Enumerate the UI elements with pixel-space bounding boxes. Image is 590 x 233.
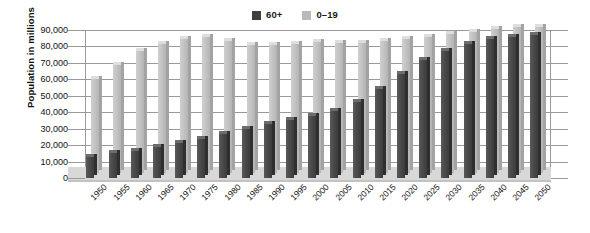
- depth-connector-2: [68, 145, 85, 146]
- bar-side-facet: [499, 26, 502, 170]
- y-axis-tick-3: 30,000: [24, 124, 68, 133]
- bar-face: [109, 153, 117, 178]
- bar-60-1985: [242, 129, 250, 178]
- bar-60-2050: [530, 35, 538, 178]
- bar-top-facet: [264, 121, 272, 124]
- bar-top-facet: [375, 86, 383, 89]
- bar-top-facet: [247, 42, 255, 45]
- bar-top-facet: [313, 39, 321, 42]
- bar-top-facet: [308, 113, 316, 116]
- bar-top-facet: [380, 38, 388, 41]
- population-bar-chart: 60+ 0–19 Population in millions 010,0002…: [0, 0, 590, 233]
- bar-60-2005: [330, 111, 338, 178]
- bar-body: [530, 35, 538, 178]
- legend-entry-60plus: 60+: [252, 10, 282, 20]
- bar-side-facet: [299, 41, 302, 170]
- bar-60-1970: [175, 143, 183, 178]
- y-axis-tick-5: 50,000: [24, 91, 68, 100]
- bar-side-facet: [343, 40, 346, 170]
- bar-top-facet: [219, 131, 227, 134]
- bar-top-facet: [175, 140, 183, 143]
- bar-60-1965: [153, 147, 161, 178]
- bar-60-1955: [109, 153, 117, 178]
- bar-side-facet: [250, 126, 253, 175]
- bar-face: [131, 151, 139, 178]
- bar-top-facet: [535, 24, 543, 27]
- bar-face: [308, 116, 316, 178]
- side-depth-tick-4: [551, 112, 568, 113]
- bar-side-facet: [472, 41, 475, 175]
- bar-top-facet: [508, 34, 516, 37]
- dark-square-icon: [252, 11, 261, 20]
- side-depth-tick-6: [551, 79, 568, 80]
- y-axis-tick-7: 70,000: [24, 58, 68, 67]
- bar-side-facet: [117, 150, 120, 175]
- side-depth-tick-1: [551, 162, 568, 163]
- bar-top-facet: [335, 40, 343, 43]
- depth-connector-8: [68, 46, 85, 47]
- bar-side-facet: [166, 41, 169, 170]
- bar-top-facet: [441, 48, 449, 51]
- bar-60-1960: [131, 151, 139, 178]
- bar-face: [242, 129, 250, 178]
- bar-face: [375, 89, 383, 178]
- y-axis-tick-2: 20,000: [24, 141, 68, 150]
- y-axis-tick-9: 90,000: [24, 26, 68, 35]
- bar-side-facet: [316, 113, 319, 175]
- bar-top-facet: [131, 148, 139, 151]
- bar-top-facet: [109, 150, 117, 153]
- bar-side-facet: [432, 34, 435, 170]
- legend-entry-0-19: 0–19: [302, 10, 338, 20]
- depth-connector-1: [68, 162, 85, 163]
- bar-series-container: [68, 30, 568, 190]
- bar-side-facet: [144, 48, 147, 170]
- side-depth-tick-0: [551, 178, 568, 179]
- depth-connector-4: [68, 112, 85, 113]
- bar-60-2000: [308, 116, 316, 178]
- plot-area: [68, 30, 568, 190]
- y-axis-tick-8: 80,000: [24, 42, 68, 51]
- bar-face: [86, 157, 94, 178]
- y-axis-tick-4: 40,000: [24, 108, 68, 117]
- bar-body: [486, 39, 494, 178]
- bar-top-facet: [353, 99, 361, 102]
- bar-top-facet: [491, 26, 499, 29]
- light-square-icon: [302, 11, 311, 20]
- y-axis-tick-0: 0: [24, 174, 68, 183]
- bar-body: [264, 124, 272, 178]
- bar-body: [175, 143, 183, 178]
- depth-connector-9: [68, 30, 85, 31]
- side-depth-tick-5: [551, 96, 568, 97]
- bar-60-1975: [197, 139, 205, 178]
- bar-side-facet: [494, 36, 497, 175]
- bar-side-facet: [454, 31, 457, 170]
- bar-60-2020: [397, 74, 405, 178]
- bar-side-facet: [121, 62, 124, 170]
- bar-face: [353, 102, 361, 178]
- bar-body: [441, 51, 449, 178]
- bar-side-facet: [361, 99, 364, 175]
- bar-body: [375, 89, 383, 178]
- bar-top-facet: [486, 36, 494, 39]
- bar-top-facet: [464, 41, 472, 44]
- bar-60-1990: [264, 124, 272, 178]
- bar-side-facet: [321, 39, 324, 170]
- bar-side-facet: [99, 76, 102, 170]
- bar-side-facet: [188, 36, 191, 170]
- bar-body: [308, 116, 316, 178]
- bar-face: [486, 39, 494, 178]
- bar-side-facet: [388, 38, 391, 170]
- bar-side-facet: [521, 24, 524, 170]
- bar-side-facet: [410, 36, 413, 170]
- bar-body: [153, 147, 161, 178]
- bar-side-facet: [516, 34, 519, 175]
- side-depth-tick-8: [551, 46, 568, 47]
- bar-side-facet: [94, 154, 97, 175]
- bar-top-facet: [180, 36, 188, 39]
- bar-side-facet: [210, 34, 213, 170]
- bar-face: [508, 37, 516, 178]
- bar-side-facet: [477, 29, 480, 170]
- bar-60-1950: [86, 157, 94, 178]
- bar-body: [397, 74, 405, 178]
- bar-body: [242, 129, 250, 178]
